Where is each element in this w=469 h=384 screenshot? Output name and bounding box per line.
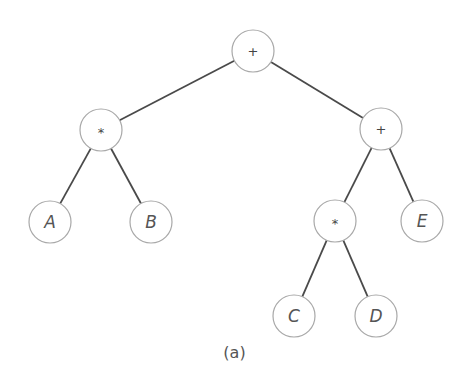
tree-node-root: +: [232, 30, 274, 72]
tree-node-mul2: *: [314, 200, 356, 242]
expression-tree: +*+AB*ECD: [0, 0, 469, 384]
tree-node-E: E: [401, 200, 443, 242]
edges-layer: [60, 61, 413, 297]
operator-label: +: [376, 122, 387, 137]
figure-caption: (a): [0, 343, 469, 362]
edge-root-mul1: [120, 61, 235, 121]
operator-label: *: [332, 216, 339, 231]
tree-node-B: B: [130, 201, 172, 243]
tree-node-plus2: +: [360, 108, 402, 150]
operand-label: D: [369, 306, 382, 326]
edge-mul1-A: [60, 148, 91, 203]
edge-plus2-mul2: [344, 148, 371, 202]
tree-node-mul1: *: [80, 109, 122, 151]
tree-node-D: D: [355, 295, 397, 337]
operand-label: A: [43, 212, 56, 232]
edge-root-plus2: [271, 62, 363, 118]
operand-label: B: [145, 212, 157, 232]
operand-label: E: [417, 211, 428, 231]
edge-plus2-E: [390, 148, 414, 202]
tree-node-C: C: [273, 295, 315, 337]
edge-mul2-D: [343, 240, 367, 296]
operand-label: C: [288, 306, 300, 326]
operator-label: +: [248, 44, 259, 59]
operator-label: *: [98, 125, 105, 140]
edge-mul2-C: [302, 240, 326, 296]
nodes-layer: +*+AB*ECD: [29, 30, 443, 337]
tree-node-A: A: [29, 201, 71, 243]
edge-mul1-B: [111, 148, 141, 203]
